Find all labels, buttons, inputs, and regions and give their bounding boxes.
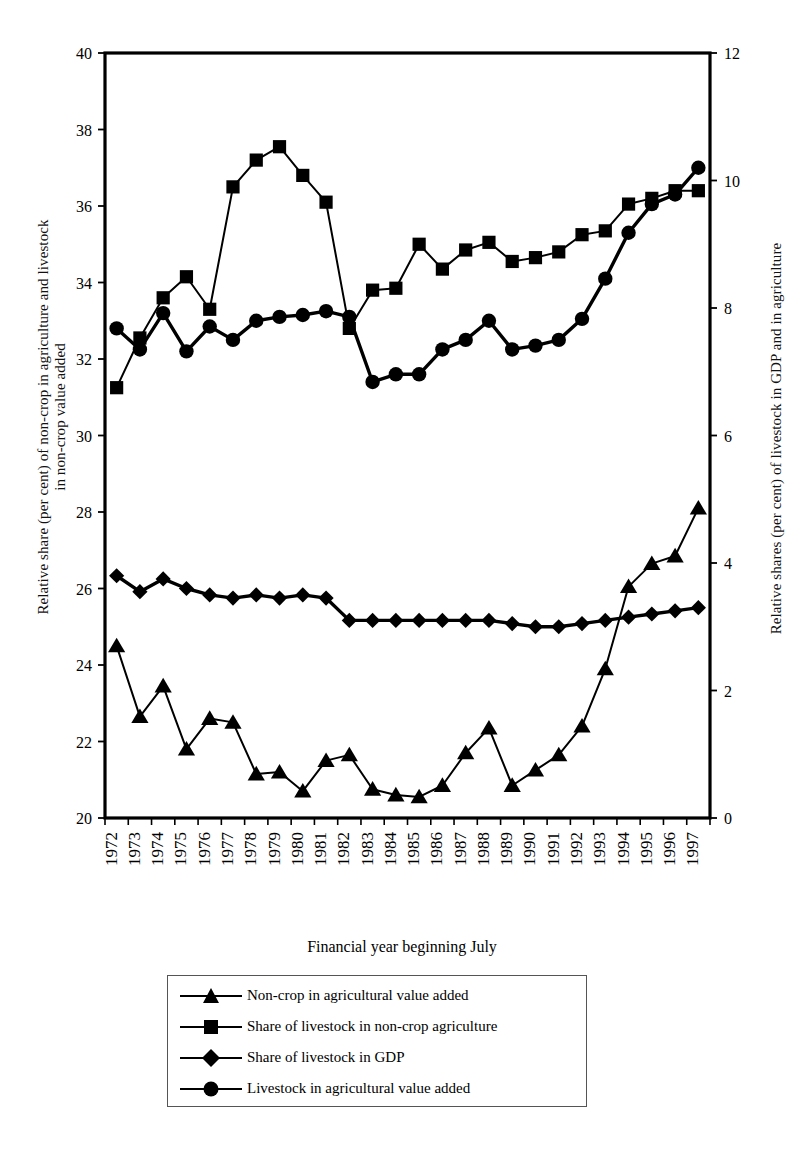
y-axis-left-title-line1: Relative share (per cent) of non-crop in… [35,219,51,614]
data-point-diamond [481,613,496,628]
data-point-square [157,291,170,304]
legend-item[interactable]: Non-crop in agricultural value added [168,980,586,1011]
chart-legend: Non-crop in agricultural value added Sha… [167,975,587,1107]
data-point-circle [389,367,403,381]
data-point-square [599,224,612,237]
data-point-diamond [551,619,566,634]
data-point-circle [435,342,449,356]
x-axis-tick-label: 1984 [381,832,400,867]
data-point-circle [156,306,170,320]
data-point-circle [621,226,635,240]
data-point-circle [505,342,519,356]
x-axis-tick-label: 1988 [474,832,493,866]
data-point-diamond [365,613,380,628]
legend-marker-diamond-icon [180,1048,242,1068]
y-axis-left-tick-label: 26 [76,581,92,598]
data-point-triangle [527,762,544,777]
x-axis-title: Financial year beginning July [0,938,804,956]
data-point-triangle [178,741,195,756]
x-axis-tick-label: 1989 [497,832,516,866]
legend-label: Share of livestock in non-crop agricultu… [242,1018,497,1035]
x-axis-tick-label: 1991 [544,832,563,866]
y-axis-right-title: Relative shares (per cent) of livestock … [768,159,785,719]
data-point-square [366,284,379,297]
x-axis-tick-label: 1995 [637,832,656,866]
data-point-circle [296,308,310,322]
data-point-circle [645,197,659,211]
data-point-diamond [528,619,543,634]
data-point-square [459,243,472,256]
x-axis-tick-label: 1994 [614,832,633,867]
data-point-circle [319,304,333,318]
data-point-diamond [505,616,520,631]
x-axis-tick-label: 1985 [404,832,423,866]
data-point-square [506,255,519,268]
data-point-circle [458,333,472,347]
legend-item[interactable]: Livestock in agricultural value added [168,1073,586,1104]
data-point-square [575,228,588,241]
x-axis-tick-label: 1982 [334,832,353,866]
legend-item[interactable]: Share of livestock in non-crop agricultu… [168,1011,586,1042]
x-axis-tick-label: 1977 [218,832,237,867]
data-point-square [552,245,565,258]
x-axis-tick-label: 1990 [520,832,539,866]
y-axis-left-title-line2: in non-crop value added [52,137,69,697]
data-point-diamond [574,616,589,631]
series-diamond [109,568,706,634]
data-point-diamond [458,613,473,628]
data-point-diamond [388,613,403,628]
data-point-diamond [691,600,706,615]
y-axis-left-tick-label: 36 [76,198,92,215]
plot-area: 2022242628303234363840024681012197219731… [0,0,804,930]
data-point-circle [203,319,217,333]
data-point-square [436,263,449,276]
data-point-circle [109,321,123,335]
data-point-square [319,196,332,209]
data-point-diamond [225,590,240,605]
series-circle [109,161,705,390]
plot-frame [105,53,710,818]
data-point-circle [528,338,542,352]
data-point-diamond [412,613,427,628]
y-axis-left-tick-label: 34 [76,275,92,292]
legend-label: Share of livestock in GDP [242,1049,404,1066]
legend-marker-triangle-icon [180,986,242,1006]
data-point-square [273,140,286,153]
y-axis-left-tick-label: 22 [76,734,92,751]
data-point-diamond [295,587,310,602]
data-point-square [203,303,216,316]
data-point-circle [691,161,705,175]
data-point-triangle [573,718,590,733]
legend-label: Livestock in agricultural value added [242,1080,470,1097]
data-point-circle [249,314,263,328]
x-axis-tick-label: 1979 [265,832,284,866]
x-axis-tick-label: 1996 [660,832,679,866]
data-point-triangle [504,777,521,792]
data-point-diamond [435,613,450,628]
y-axis-left-title: Relative share (per cent) of non-crop in… [35,137,69,697]
data-point-circle [342,310,356,324]
legend-item[interactable]: Share of livestock in GDP [168,1042,586,1073]
data-point-circle [226,333,240,347]
data-point-square [296,169,309,182]
data-point-circle [552,333,566,347]
x-axis-tick-label: 1975 [171,832,190,866]
data-point-triangle [201,710,218,725]
data-point-circle [365,375,379,389]
data-point-diamond [156,571,171,586]
y-axis-left-tick-label: 32 [76,351,92,368]
legend-marker-square-icon [180,1017,242,1037]
data-point-triangle [643,555,660,570]
data-point-triangle [480,720,497,735]
data-point-square [413,238,426,251]
data-point-diamond [621,610,636,625]
data-point-square [529,251,542,264]
data-point-diamond [272,590,287,605]
data-point-circle [575,312,589,326]
data-point-circle [179,344,193,358]
x-axis-tick-label: 1973 [125,832,144,866]
x-axis-tick-label: 1983 [358,832,377,866]
data-point-triangle [155,678,172,693]
data-point-triangle [131,708,148,723]
x-axis-tick-label: 1980 [288,832,307,866]
